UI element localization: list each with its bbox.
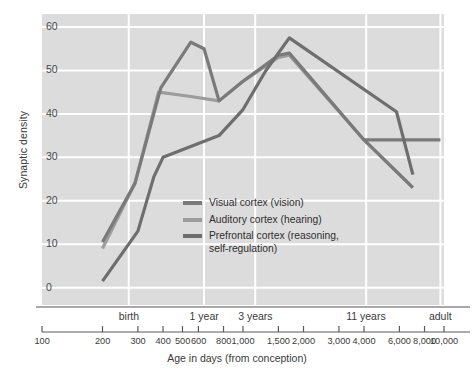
day-tick-label: 100 [35, 336, 50, 346]
day-tick-label: 500 [175, 336, 190, 346]
y-tick-label: 30 [46, 150, 58, 162]
synaptic-density-chart: Synaptic density 0102030405060 birth1 ye… [0, 0, 474, 380]
x-axis-title: Age in days (from conception) [0, 352, 474, 364]
y-tick-label: 10 [46, 237, 58, 249]
day-tick-label: 600 [191, 336, 206, 346]
day-tick-label: 1,500 [267, 336, 290, 346]
era-label: birth [119, 310, 139, 322]
legend-label: Auditory cortex (hearing) [209, 213, 322, 226]
chart-canvas [0, 0, 474, 380]
chart-legend: Visual cortex (vision)Auditory cortex (h… [183, 196, 413, 259]
legend-item: Prefrontal cortex (reasoning, self-regul… [183, 229, 413, 255]
day-tick-label: 800 [216, 336, 231, 346]
day-tick-label: 6,000 [388, 336, 411, 346]
day-tick-label: 10,000 [430, 336, 458, 346]
y-tick-label: 0 [46, 281, 52, 293]
legend-color-swatch [183, 201, 202, 205]
day-tick-label: 200 [95, 336, 110, 346]
era-label: 11 years [346, 310, 386, 322]
y-tick-label: 40 [46, 107, 58, 119]
day-tick-label: 400 [156, 336, 171, 346]
y-tick-label: 60 [46, 20, 58, 32]
day-tick-label: 300 [130, 336, 145, 346]
legend-color-swatch [183, 218, 202, 222]
legend-color-swatch [183, 234, 202, 238]
day-tick-label: 4,000 [353, 336, 376, 346]
legend-label: Visual cortex (vision) [209, 196, 304, 209]
day-tick-label: 1,000 [232, 336, 255, 346]
day-tick-label: 3,000 [327, 336, 350, 346]
legend-label: Prefrontal cortex (reasoning, self-regul… [209, 229, 339, 255]
legend-item: Visual cortex (vision) [183, 196, 413, 209]
y-tick-label: 50 [46, 63, 58, 75]
era-label: 3 years [238, 310, 272, 322]
era-label: adult [429, 310, 452, 322]
y-tick-label: 20 [46, 194, 58, 206]
legend-item: Auditory cortex (hearing) [183, 213, 413, 226]
day-tick-label: 2,000 [292, 336, 315, 346]
era-label: 1 year [190, 310, 219, 322]
